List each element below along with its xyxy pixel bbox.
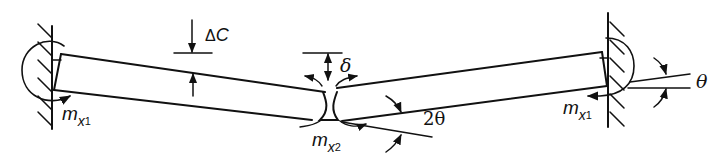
right-wall-support — [608, 13, 624, 127]
two-theta-angle — [342, 96, 432, 152]
index-subscript: 1 — [85, 115, 91, 127]
left-beam-segment — [52, 54, 325, 120]
delta-symbol: Δ — [205, 27, 216, 44]
index-subscript: 1 — [586, 109, 592, 121]
moment-left-label: mx1 — [62, 104, 91, 128]
x-subscript: x — [579, 107, 586, 123]
delta-c-label: ΔC — [205, 26, 229, 44]
index-subscript: 2 — [335, 141, 341, 153]
moment-center-label: mx2 — [312, 130, 341, 154]
delta-label: δ — [340, 56, 351, 75]
x-subscript: x — [328, 139, 335, 155]
moment-right-label: mx1 — [563, 98, 592, 122]
left-wall-support — [38, 24, 52, 129]
theta-label: θ — [696, 72, 707, 91]
theta-angle — [628, 58, 690, 107]
x-subscript: x — [78, 113, 85, 129]
m-symbol: m — [312, 129, 328, 150]
c-var: C — [216, 25, 229, 45]
beam-diagram — [0, 0, 718, 161]
m-symbol: m — [62, 103, 78, 124]
two-theta-label: 2θ — [423, 110, 445, 128]
m-symbol: m — [563, 97, 579, 118]
